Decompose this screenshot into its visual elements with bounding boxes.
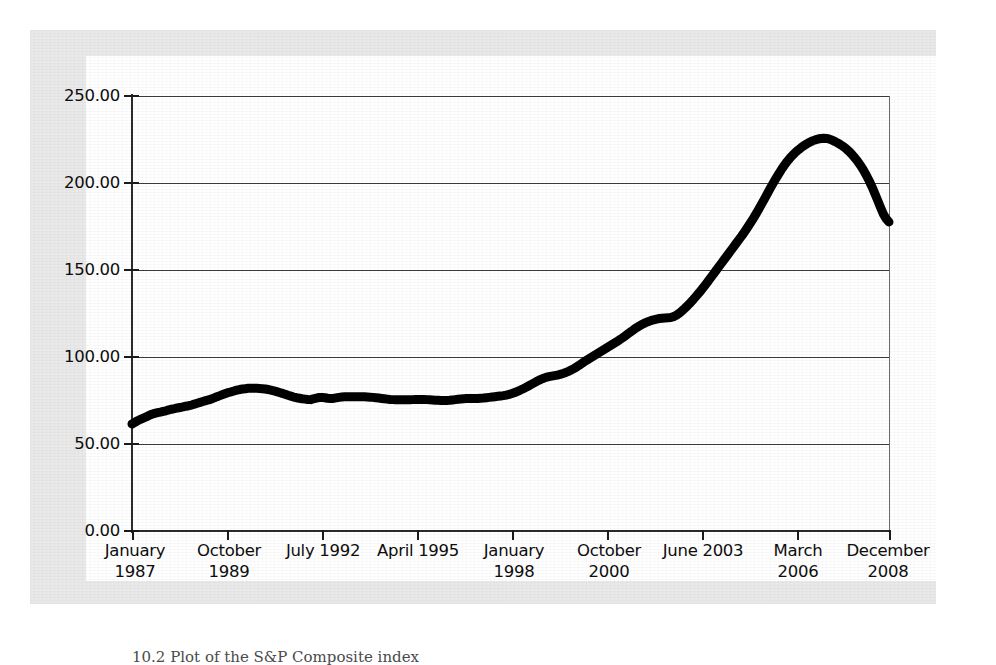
y-axis-line xyxy=(131,94,133,533)
chart-figure: 250.00 200.00 150.00 100.00 50.00 0.00 J… xyxy=(0,0,996,665)
page-background: 250.00 200.00 150.00 100.00 50.00 0.00 J… xyxy=(0,0,996,665)
x-tick-mark-7 xyxy=(797,530,799,540)
x-tick-label-5-line1: October xyxy=(577,541,641,560)
y-tick-mark-150 xyxy=(124,269,139,271)
x-tick-label-1-line1: October xyxy=(197,541,261,560)
y-tick-0: 0.00 xyxy=(0,521,120,541)
gridline-150 xyxy=(132,270,890,271)
y-tick-mark-100 xyxy=(124,356,139,358)
x-tick-label-0-line1: January xyxy=(105,541,165,560)
x-tick-label-4-line1: January xyxy=(484,541,544,560)
x-tick-mark-8 xyxy=(889,530,891,540)
y-tick-150: 150.00 xyxy=(0,260,120,280)
x-tick-label-7-line1: March xyxy=(774,541,823,560)
x-tick-mark-2 xyxy=(322,530,324,540)
x-tick-label-3-line1: April 1995 xyxy=(377,541,459,560)
plot-right-border xyxy=(889,96,890,532)
series-line-sp-composite xyxy=(132,138,889,424)
figure-caption: 10.2 Plot of the S&P Composite index xyxy=(0,648,996,665)
gridline-200 xyxy=(132,183,890,184)
gridline-100 xyxy=(132,357,890,358)
x-tick-mark-6 xyxy=(702,530,704,540)
gridline-250 xyxy=(132,96,890,97)
x-tick-label-1-line2: 1989 xyxy=(169,561,289,582)
x-tick-label-8: December 2008 xyxy=(828,540,948,582)
x-tick-label-6-line1: June 2003 xyxy=(663,541,743,560)
x-tick-mark-4 xyxy=(512,530,514,540)
y-tick-200: 200.00 xyxy=(0,173,120,193)
gridline-50 xyxy=(132,444,890,445)
y-tick-50: 50.00 xyxy=(0,434,120,454)
y-tick-label-150: 150.00 xyxy=(0,260,120,279)
y-tick-mark-250 xyxy=(124,95,139,97)
y-tick-mark-200 xyxy=(124,182,139,184)
x-tick-label-2-line1: July 1992 xyxy=(286,541,360,560)
x-tick-mark-5 xyxy=(607,530,609,540)
y-tick-100: 100.00 xyxy=(0,347,120,367)
x-tick-label-5-line2: 2000 xyxy=(549,561,669,582)
x-tick-mark-3 xyxy=(417,530,419,540)
x-tick-mark-0 xyxy=(132,530,134,540)
x-tick-mark-1 xyxy=(227,530,229,540)
y-tick-label-100: 100.00 xyxy=(0,347,120,366)
y-tick-label-0: 0.00 xyxy=(0,521,120,540)
y-tick-250: 250.00 xyxy=(0,86,120,106)
x-tick-label-8-line1: December xyxy=(846,541,929,560)
y-tick-label-200: 200.00 xyxy=(0,173,120,192)
y-tick-label-50: 50.00 xyxy=(0,434,120,453)
y-tick-label-250: 250.00 xyxy=(0,86,120,105)
x-axis-line xyxy=(131,530,890,532)
y-tick-mark-50 xyxy=(124,443,139,445)
x-tick-label-8-line2: 2008 xyxy=(828,561,948,582)
